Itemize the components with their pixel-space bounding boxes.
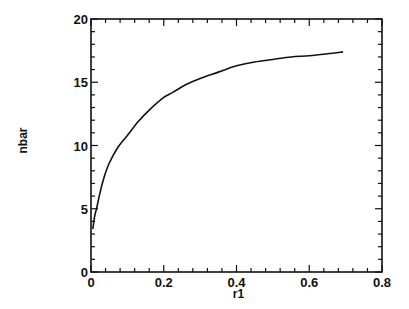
- plot-frame: [91, 19, 382, 272]
- x-tick-label: 0: [87, 275, 94, 290]
- x-tick-label: 0.2: [155, 275, 173, 290]
- y-tick-label: 10: [74, 139, 88, 154]
- x-tick-label: 0.6: [300, 275, 318, 290]
- y-axis-label: nbar: [16, 127, 30, 153]
- axis-ticks: [91, 19, 382, 272]
- y-tick-label: 15: [74, 75, 88, 90]
- data-line: [93, 52, 343, 229]
- x-axis-label: r1: [233, 287, 245, 301]
- y-tick-label: 20: [74, 12, 88, 27]
- x-tick-label: 0.8: [373, 275, 391, 290]
- y-tick-label: 5: [81, 202, 88, 217]
- y-tick-labels: 05101520: [74, 12, 88, 280]
- line-chart: 00.20.40.60.8 05101520 r1 nbar: [0, 0, 409, 309]
- y-tick-label: 0: [81, 265, 88, 280]
